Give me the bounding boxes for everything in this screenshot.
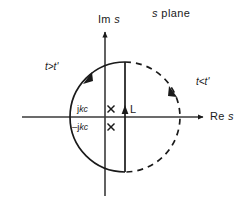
imaginary-axis-label: Im s <box>98 14 120 25</box>
real-axis-label: Re s <box>210 111 234 122</box>
contour-diagram-canvas <box>0 0 250 211</box>
pole-marker-negative <box>108 124 115 131</box>
t-greater-label: t>t' <box>45 62 58 72</box>
s-plane-title: s plane <box>152 8 190 19</box>
t-less-label: t<t' <box>196 77 209 87</box>
pole-label-negative: –jkc <box>72 122 88 132</box>
bromwich-line-arrowhead <box>122 105 129 114</box>
pole-marker-positive <box>108 106 115 113</box>
solid-arc-arrowhead <box>83 72 93 84</box>
contour-label-L: L <box>130 104 136 115</box>
dashed-arc-arrowhead <box>168 86 177 97</box>
s-plane-figure: s plane Im s Re s t>t' t<t' jkc –jkc L <box>0 0 250 211</box>
pole-label-positive: jkc <box>77 104 88 114</box>
